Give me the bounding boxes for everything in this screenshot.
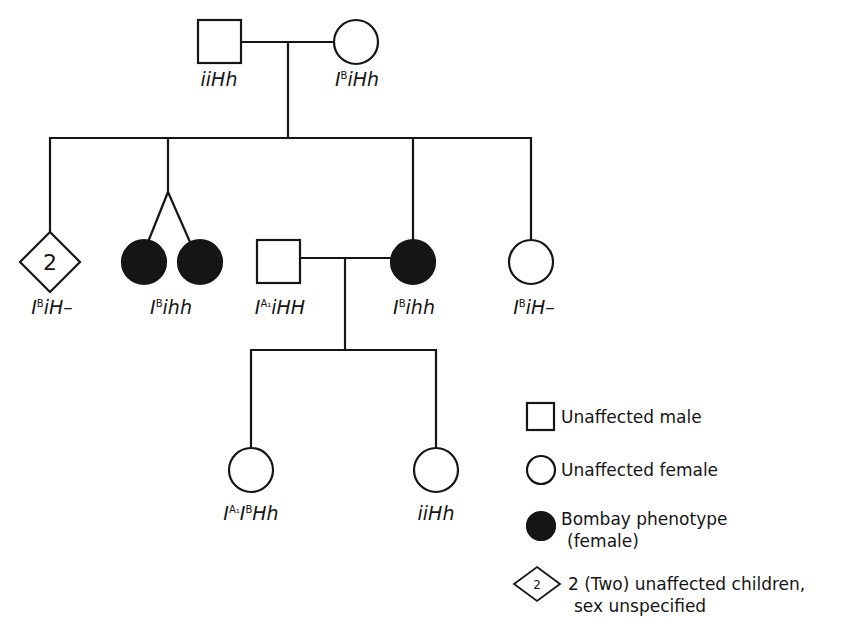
gen2-bombay-female-genotype: IBihh: [393, 296, 435, 318]
gen2-twin1-symbol: [122, 240, 166, 284]
gen3-left-child-genotype: IA₁IBHh: [223, 502, 278, 524]
legend-square-icon: [527, 403, 554, 430]
gen2-spouse-symbol: [257, 240, 300, 283]
gen2-right-female-symbol: [509, 240, 553, 284]
legend-filled-circle-icon: [527, 512, 555, 540]
gen1-father-symbol: [198, 20, 241, 63]
gen2-twins-genotype: IBihh: [150, 296, 192, 318]
legend-unaffected-male-label: Unaffected male: [561, 406, 702, 428]
gen3-right-child-symbol: [414, 448, 458, 492]
legend-circle-icon: [527, 456, 555, 484]
gen1-father-genotype: iiHh: [201, 68, 238, 90]
gen3-right-child-genotype: iiHh: [418, 502, 455, 524]
legend-diamond-label: 2 (Two) unaffected children,sex unspecif…: [568, 573, 805, 617]
gen2-diamond-genotype: IBiH–: [31, 296, 73, 318]
legend-diamond-count: 2: [533, 578, 541, 592]
gen1-mother-genotype: IBiHh: [335, 68, 379, 90]
gen1-mother-symbol: [334, 20, 378, 64]
gen2-spouse-genotype: IA₁iHH: [255, 296, 305, 318]
gen2-twin2-symbol: [178, 240, 222, 284]
legend-unaffected-female-label: Unaffected female: [561, 459, 718, 481]
gen3-left-child-symbol: [229, 448, 273, 492]
gen2-bombay-female-symbol: [391, 240, 435, 284]
gen2-right-female-genotype: IBiH–: [513, 296, 555, 318]
gen2-diamond-count: 2: [43, 250, 57, 275]
legend-bombay-label: Bombay phenotype(female): [561, 508, 727, 552]
